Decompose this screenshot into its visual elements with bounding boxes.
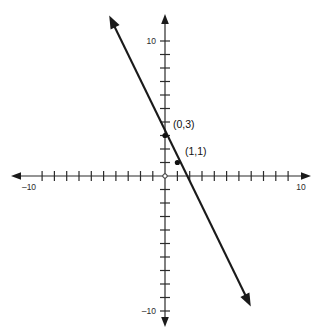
plotted-line-start-arrow-icon (109, 16, 119, 30)
y-axis-up-arrow-icon (161, 14, 169, 24)
x-axis-max-label: 10 (296, 182, 306, 192)
x-axis-min-label: –10 (22, 182, 36, 192)
point-label-0-3: (0,3) (173, 118, 195, 130)
y-axis-min-label: –10 (142, 306, 156, 316)
coordinate-graph-canvas: –10 10 (0, 0, 322, 336)
point-marker-1-1 (175, 160, 180, 165)
x-axis-right-arrow-icon (301, 172, 311, 180)
plotted-line (114, 25, 247, 298)
origin-marker (163, 174, 167, 178)
x-axis-group: –10 10 (11, 171, 311, 192)
coordinate-plane: –10 10 (0, 0, 322, 336)
point-marker-0-3 (162, 133, 167, 138)
x-axis-left-arrow-icon (11, 172, 21, 180)
point-0-3-group: (0,3) (162, 118, 194, 138)
point-1-1-group: (1,1) (175, 145, 207, 165)
plotted-line-group (109, 16, 251, 307)
y-axis-down-arrow-icon (161, 317, 169, 327)
plotted-line-end-arrow-icon (240, 292, 250, 306)
point-label-1-1: (1,1) (185, 145, 207, 157)
y-axis-max-label: 10 (147, 36, 157, 46)
y-axis-group: 10 –10 (142, 14, 170, 327)
